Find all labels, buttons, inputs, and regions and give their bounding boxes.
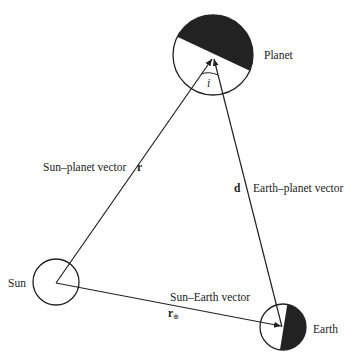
earth-body xyxy=(260,300,320,356)
sun-earth-vector-subscript: ⊕ xyxy=(173,313,179,321)
earth-label: Earth xyxy=(313,323,338,335)
earth-planet-vector-symbol: d xyxy=(234,182,241,194)
phase-angle-symbol: i xyxy=(207,77,210,89)
sun-earth-vector-arrow xyxy=(56,283,281,326)
planet-body xyxy=(150,0,276,95)
sun-label: Sun xyxy=(8,277,26,289)
sun-earth-vector-symbol: r⊕ xyxy=(168,307,179,321)
planet-label: Planet xyxy=(264,49,294,61)
sun-earth-planet-geometry-diagram: i Planet Sun Earth Sun–planet vector r d… xyxy=(0,0,351,356)
earth-planet-vector-label: Earth–planet vector xyxy=(253,182,344,195)
sun-planet-vector-label: Sun–planet vector xyxy=(43,161,127,174)
sun-earth-vector-label: Sun–Earth vector xyxy=(170,291,250,303)
sun-planet-vector-symbol: r xyxy=(137,161,142,173)
